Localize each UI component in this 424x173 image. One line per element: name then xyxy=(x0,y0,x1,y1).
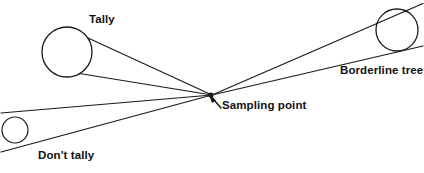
tally-lower-sight-line xyxy=(80,74,213,96)
borderline-tree-label: Borderline tree xyxy=(340,65,423,77)
borderline-upper-sight-line xyxy=(212,4,423,96)
diagram-canvas: Tally Borderline tree Sampling point Don… xyxy=(0,0,424,173)
tally-upper-sight-line xyxy=(88,38,212,95)
dont-tally-tree-circle xyxy=(2,117,28,143)
sampling-point-label: Sampling point xyxy=(222,100,306,112)
sampling-point-vertex xyxy=(208,92,213,97)
tally-label: Tally xyxy=(89,14,115,26)
sight-lines-group xyxy=(1,4,423,153)
dont-tally-label: Don't tally xyxy=(38,150,94,162)
tally-tree-circle xyxy=(42,27,92,77)
sampling-diagram xyxy=(0,0,424,173)
